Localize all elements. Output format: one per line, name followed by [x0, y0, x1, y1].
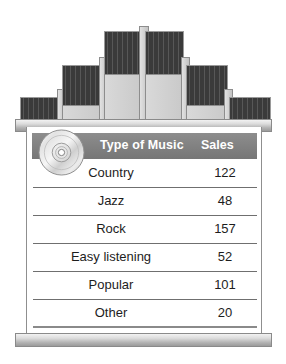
row-value: 101: [196, 277, 254, 292]
row-value: 48: [196, 193, 254, 208]
speaker-grille-tall-right: [145, 31, 184, 77]
row-value: 20: [196, 305, 254, 320]
row-label: Jazz: [26, 193, 196, 208]
stereo-speaker-illustration: [0, 0, 286, 128]
speaker-grille-mid-left: [62, 65, 104, 110]
bottom-shelf-bar: [15, 333, 272, 347]
row-label: Popular: [26, 277, 196, 292]
table-row: Rock 157: [26, 216, 262, 244]
column-header-sales: Sales: [201, 138, 234, 152]
table-row: Easy listening 52: [26, 244, 262, 272]
row-value: 122: [196, 165, 254, 180]
table-bottom-rule: [33, 326, 257, 328]
row-value: 52: [196, 249, 254, 264]
row-label: Rock: [26, 221, 196, 236]
speaker-grille-tall-left: [104, 31, 143, 77]
column-header-type-of-music: Type of Music: [100, 138, 184, 152]
row-label: Other: [26, 305, 196, 320]
speaker-grille-mid-right: [186, 65, 228, 110]
row-value: 157: [196, 221, 254, 236]
speaker-cabinet-tall-right: [145, 74, 184, 121]
row-label: Country: [26, 165, 196, 180]
speaker-grille-outer-left: [20, 97, 62, 120]
table-row: Popular 101: [26, 272, 262, 300]
music-sales-table-figure: Type of Music Sales Country: [0, 0, 286, 364]
table-row: Other 20: [26, 300, 262, 328]
table-row: Country 122: [26, 160, 262, 188]
speaker-grille-outer-right: [229, 97, 271, 120]
table-row: Jazz 48: [26, 188, 262, 216]
row-label: Easy listening: [26, 249, 196, 264]
table-body: Country 122 Jazz 48 Rock 157 Easy listen…: [26, 160, 262, 328]
speaker-cabinet-tall-left: [104, 74, 143, 121]
